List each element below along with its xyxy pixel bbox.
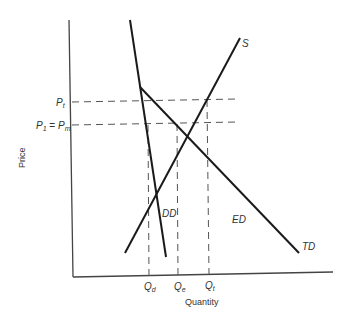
supply-label: S [242,38,249,49]
qe-dashed-line [177,124,178,275]
domestic-demand-curve [130,20,166,257]
x-axis [73,272,333,277]
supply-demand-diagram: S DD ED TD Pt P1 = Pm Qd Qe Qt Quantity … [0,0,351,321]
p1-pm-label: P1 = Pm [36,120,71,132]
x-axis-title: Quantity [185,297,219,307]
total-demand-curve [140,87,299,253]
qt-dashed-line [207,100,209,274]
qd-label: Qd [144,281,157,293]
pt-label: Pt [56,97,66,109]
supply-curve [125,38,240,253]
export-demand-label: ED [232,214,246,225]
qt-label: Qt [205,280,216,292]
y-axis [69,20,73,277]
total-demand-label: TD [302,241,315,252]
qe-label: Qe [174,281,186,293]
p1-dashed-line [72,122,237,125]
y-axis-title: Price [17,147,27,168]
domestic-demand-label: DD [162,208,176,219]
